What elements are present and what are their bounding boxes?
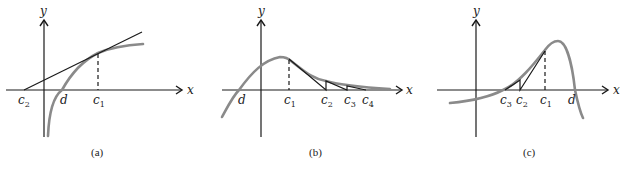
c2-label: c2 [321, 93, 333, 109]
c4-label: c4 [362, 93, 374, 109]
c2-label: c2 [516, 93, 528, 109]
x-axis-label: x [613, 83, 620, 97]
c2-label: c2 [18, 93, 30, 109]
panel-c: x y c3 c2 c1 d (c) [437, 4, 620, 159]
y-axis-label: y [39, 4, 47, 18]
y-axis-label: y [472, 4, 480, 18]
c3-label: c3 [500, 93, 512, 109]
c3-label: c3 [344, 93, 356, 109]
caption-a: (a) [91, 146, 104, 159]
caption-c: (c) [523, 146, 536, 159]
y-axis-label: y [257, 4, 265, 18]
panel-a: x y c2 d c1 (a) [6, 4, 194, 159]
d-label: d [60, 93, 68, 107]
c1-label: c1 [284, 93, 296, 109]
newton-method-figure: x y c2 d c1 (a) x y d c1 c2 c3 c4 (b) [0, 0, 624, 169]
d-label: d [568, 93, 576, 107]
function-curve [222, 57, 390, 117]
caption-b: (b) [309, 146, 322, 159]
panel-b: x y d c1 c2 c3 c4 (b) [222, 4, 413, 159]
x-axis-label: x [187, 83, 194, 97]
d-label: d [238, 93, 246, 107]
x-axis-label: x [406, 83, 413, 97]
tangent-line [24, 32, 142, 90]
c1-label: c1 [93, 93, 105, 109]
figure-canvas: x y c2 d c1 (a) x y d c1 c2 c3 c4 (b) [0, 0, 624, 169]
c1-label: c1 [540, 93, 552, 109]
